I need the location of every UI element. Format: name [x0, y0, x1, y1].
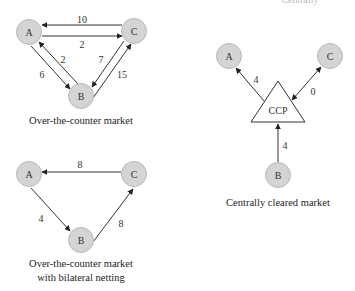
caption-ccp-market: Centrally cleared market: [226, 197, 330, 208]
node-c: C: [318, 44, 343, 69]
edge-c-to-ccp: [292, 67, 321, 100]
svg-text:A: A: [225, 51, 233, 62]
edge-b-to-c: [93, 189, 133, 242]
node-a: A: [17, 20, 42, 45]
edge-label-c-to-ccp: 0: [311, 86, 316, 97]
svg-text:CCP: CCP: [269, 105, 288, 116]
node-b: B: [69, 84, 94, 109]
ccp-market-diagram: 4 0 4 CCP A C B Centrally cleared market: [217, 44, 343, 209]
cut-off-header-text: Centrally: [281, 0, 318, 5]
edge-c-to-b: [92, 41, 124, 87]
node-c: C: [122, 162, 147, 187]
svg-text:C: C: [327, 51, 334, 62]
svg-text:A: A: [25, 169, 33, 180]
svg-text:C: C: [131, 26, 138, 37]
svg-text:B: B: [275, 170, 282, 181]
edge-label-c-to-a: 10: [77, 14, 87, 25]
edge-label-b-to-c: 15: [117, 69, 127, 80]
caption-otc-netting-line2: with bilateral netting: [37, 272, 125, 283]
edge-label-ccp-to-a: 4: [254, 74, 259, 85]
edge-label-c-to-b: 7: [99, 54, 104, 65]
caption-otc-netting-line1: Over-the-counter market: [29, 258, 133, 269]
diagram-canvas: Centrally 10 2 2 6 7 15 A C B Over-: [0, 0, 355, 291]
svg-text:A: A: [25, 27, 33, 38]
otc-market-diagram: 10 2 2 6 7 15 A C B Over-the-counter mar…: [17, 14, 147, 127]
edge-a-to-b: [31, 188, 70, 231]
svg-text:B: B: [78, 235, 85, 246]
edge-label-a-to-b: 6: [40, 69, 45, 80]
edge-label-a-to-c: 2: [80, 39, 85, 50]
edge-label-b-to-ccp: 4: [283, 140, 288, 151]
edge-label-b-to-c: 8: [119, 218, 124, 229]
edge-ccp-to-a: [236, 68, 264, 101]
node-c: C: [122, 19, 147, 44]
edge-b-to-a: [39, 42, 78, 84]
caption-otc-market: Over-the-counter market: [29, 115, 133, 126]
edge-label-b-to-a: 2: [61, 54, 66, 65]
otc-netting-diagram: 8 4 8 A C B Over-the-counter market with…: [17, 159, 147, 284]
ccp-hub: CCP: [251, 81, 305, 122]
node-b: B: [69, 228, 94, 253]
node-a: A: [217, 44, 242, 69]
edge-a-to-b: [31, 46, 70, 89]
edge-label-a-to-b: 4: [39, 213, 44, 224]
node-b: B: [266, 163, 291, 188]
node-a: A: [17, 162, 42, 187]
svg-text:C: C: [131, 169, 138, 180]
edge-label-c-to-a: 8: [78, 159, 83, 170]
svg-text:B: B: [78, 91, 85, 102]
